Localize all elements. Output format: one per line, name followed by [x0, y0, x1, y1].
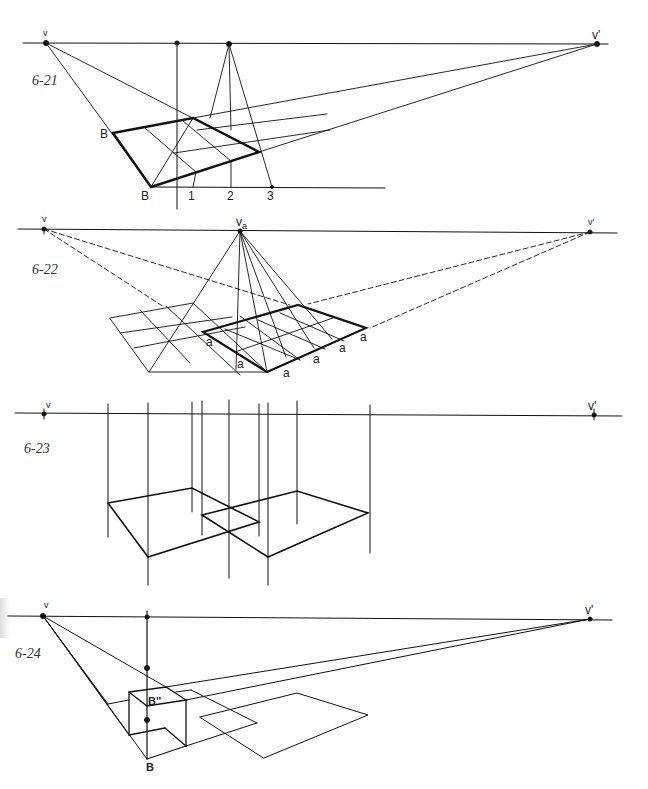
point-label-B-double-prime: B''	[148, 696, 161, 707]
segment-label-a: a	[313, 353, 320, 365]
point-label-B: B	[146, 762, 154, 773]
segment-label-a: a	[206, 336, 213, 348]
segment-label-a: a	[360, 331, 367, 343]
figure-label-6-24: 6-24	[15, 646, 41, 662]
point-label-v-prime: v'	[585, 604, 593, 616]
perspective-diagrams	[0, 0, 648, 789]
point-label-va: va	[236, 216, 247, 231]
point-label-v-prime: v'	[588, 400, 596, 412]
figure-label-6-21: 6-21	[32, 73, 58, 89]
figure-label-6-23: 6-23	[24, 441, 50, 457]
point-label-v-prime: v'	[588, 218, 594, 227]
figure-6-23	[15, 400, 622, 585]
point-label-v-prime: v'	[592, 29, 600, 41]
point-label-B-top: B	[100, 128, 108, 140]
point-label-v: v	[44, 601, 49, 610]
point-label-1: 1	[188, 190, 195, 202]
point-label-v: v	[46, 401, 51, 410]
segment-label-a: a	[283, 367, 290, 379]
figure-6-24	[8, 611, 612, 759]
figure-6-21	[23, 41, 608, 210]
segment-label-a: a	[237, 358, 244, 370]
point-label-v: v	[42, 215, 47, 224]
point-label-B-bottom: B	[141, 190, 149, 202]
point-label-2: 2	[227, 190, 234, 202]
segment-label-a: a	[339, 342, 346, 354]
point-label-v: v	[43, 29, 48, 38]
figure-label-6-22: 6-22	[32, 262, 58, 278]
point-label-3: 3	[267, 190, 274, 202]
